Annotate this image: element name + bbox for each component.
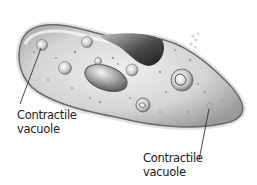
label-contractile-vacuole-right: Contractile vacuole — [143, 151, 203, 179]
food-vacuole — [136, 98, 150, 112]
vacuole — [95, 58, 102, 65]
vacuole — [59, 62, 72, 75]
vacuole — [126, 64, 138, 76]
label-line-1: Contractile — [143, 151, 203, 165]
contractile-vacuole-left-shape — [37, 40, 48, 51]
expelled-bubbles — [190, 33, 199, 48]
label-line-2: vacuole — [17, 122, 77, 136]
food-vacuole — [171, 69, 193, 91]
paramecium-diagram: Contractile vacuole Contractile vacuole — [0, 0, 257, 185]
label-line-1: Contractile — [17, 108, 77, 122]
label-line-2: vacuole — [143, 165, 203, 179]
label-contractile-vacuole-left: Contractile vacuole — [17, 108, 77, 136]
paramecium-illustration — [0, 0, 257, 185]
vacuole — [82, 37, 93, 48]
